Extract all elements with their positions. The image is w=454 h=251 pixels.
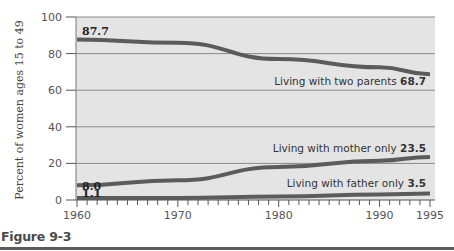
x-tick-label: 1970 [164, 209, 192, 222]
x-tick-label: 1990 [366, 209, 394, 222]
figure-label: Figure 9-3 [1, 229, 71, 244]
y-tick-label: 100 [41, 11, 62, 24]
figure-rule [0, 247, 454, 250]
x-tick-label: 1995 [416, 209, 444, 222]
plot-background [76, 17, 435, 200]
start-value-label: 1.1 [82, 187, 101, 200]
y-tick-label: 0 [55, 194, 62, 207]
y-tick-label: 60 [48, 84, 62, 97]
series-end-value: 3.5 [407, 177, 426, 189]
y-tick-label: 40 [48, 121, 62, 134]
series-name: Living with mother only [273, 142, 400, 154]
line-chart: 020406080100 19601970198019901995 87.7Li… [0, 0, 454, 226]
series-end-value: 68.7 [400, 75, 426, 87]
x-tick-label: 1960 [63, 209, 91, 222]
x-axis: 19601970198019901995 [63, 200, 444, 222]
series-end-value: 23.5 [400, 142, 426, 154]
series-end-label: Living with mother only 23.5 [273, 142, 426, 154]
series-name: Living with two parents [274, 75, 400, 87]
series-end-label: Living with two parents 68.7 [274, 75, 426, 87]
series-end-label: Living with father only 3.5 [287, 177, 426, 189]
y-tick-label: 80 [48, 48, 62, 61]
plot-area [76, 17, 435, 200]
y-axis: 020406080100 [41, 11, 76, 207]
start-value-label: 87.7 [82, 25, 109, 38]
series-name: Living with father only [287, 177, 408, 189]
y-axis-title: Percent of women ages 15 to 49 [13, 20, 26, 199]
x-tick-label: 1980 [265, 209, 293, 222]
y-tick-label: 20 [48, 157, 62, 170]
